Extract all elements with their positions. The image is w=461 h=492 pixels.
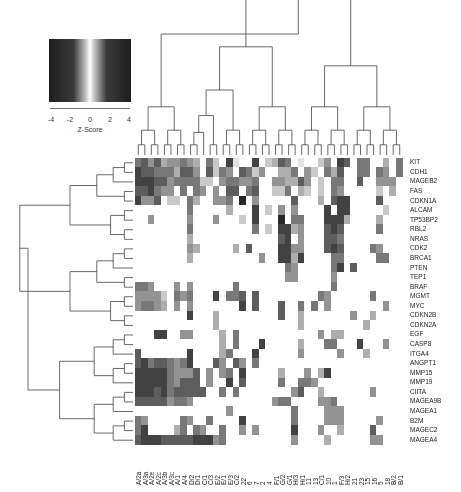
column-label: B/1 [397,475,404,485]
row-label: ANGPT1 [410,360,436,367]
row-label: MGMT [410,293,430,300]
row-label: CDK2 [410,245,427,252]
heatmap-grid [135,158,403,445]
row-label: CASP8 [410,341,431,348]
row-label: MAGEA4 [410,437,437,444]
row-label: FAS [410,188,422,195]
row-label: MAGEA1 [410,408,437,415]
row-label: CDH1 [410,169,428,176]
row-label: MMP19 [410,379,432,386]
column-label: 15 [364,478,371,485]
row-label: TP53BP2 [410,217,438,224]
column-label: A/4 [181,475,188,485]
row-label: MYC [410,303,424,310]
row-label: ALCAM [410,207,432,214]
row-label: CDKN2A [410,322,436,329]
row-label: CIITA [410,389,426,396]
row-label: MAGEA9B [410,398,441,405]
row-label: EGF [410,331,423,338]
row-label: MMP15 [410,370,432,377]
row-label: PTEN [410,265,427,272]
column-label: 21 [351,478,358,485]
row-label: MAGEB2 [410,178,437,185]
row-label: B2M [410,418,423,425]
row-label: MAGEC2 [410,427,437,434]
row-label: NRAS [410,236,428,243]
row-label: KIT [410,159,420,166]
row-label: RBL2 [410,226,426,233]
row-label: CDKN2B [410,312,436,319]
row-label: TEP1 [410,274,426,281]
row-label: CDKN1A [410,198,436,205]
row-label: BRCA1 [410,255,432,262]
row-label: ITGA4 [410,351,429,358]
row-label: BRAF [410,284,427,291]
column-label: 4 [266,481,273,485]
column-label: G/2 [279,475,286,485]
